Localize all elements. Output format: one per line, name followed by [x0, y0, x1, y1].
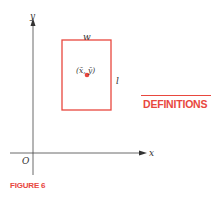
figure-caption: FIGURE 6 [10, 181, 45, 190]
width-label: w [83, 32, 91, 42]
section-rule [141, 95, 211, 96]
y-axis-label: y [29, 11, 36, 21]
x-axis-label: x [149, 148, 154, 158]
definitions-heading: DEFINITIONS [143, 98, 207, 110]
x-axis-arrow-icon [139, 151, 147, 156]
origin-label: O [22, 156, 30, 166]
length-label: l [116, 76, 119, 86]
centroid-label: (x̄, ȳ) [76, 66, 95, 75]
